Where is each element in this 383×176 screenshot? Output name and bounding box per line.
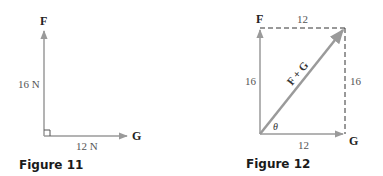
figure-11-caption: Figure 11 [19, 158, 83, 172]
resultant-label: F + G [284, 59, 310, 88]
vector-f-magnitude: 16 N [18, 78, 40, 90]
right-side-label: 16 [350, 75, 362, 87]
vector-g-name: G [132, 129, 141, 143]
figure-12: F 12 16 16 F + G θ 12 G Figure 12 [245, 12, 362, 171]
right-angle-marker [44, 130, 50, 136]
vector-f-magnitude: 16 [245, 75, 257, 87]
vector-diagrams: F 16 N G 12 N Figure 11 F 12 16 16 F + G… [0, 0, 383, 176]
vector-f-name: F [256, 12, 263, 26]
figure-11: F 16 N G 12 N Figure 11 [18, 14, 141, 172]
top-side-label: 12 [297, 13, 308, 25]
vector-f-name: F [40, 14, 47, 28]
figure-12-caption: Figure 12 [246, 157, 310, 171]
angle-theta-label: θ [273, 121, 278, 132]
vector-g-name: G [349, 134, 358, 148]
vector-g-magnitude: 12 N [76, 140, 98, 152]
resultant-vector-arrow [260, 30, 343, 134]
vector-g-magnitude: 12 [298, 139, 309, 151]
